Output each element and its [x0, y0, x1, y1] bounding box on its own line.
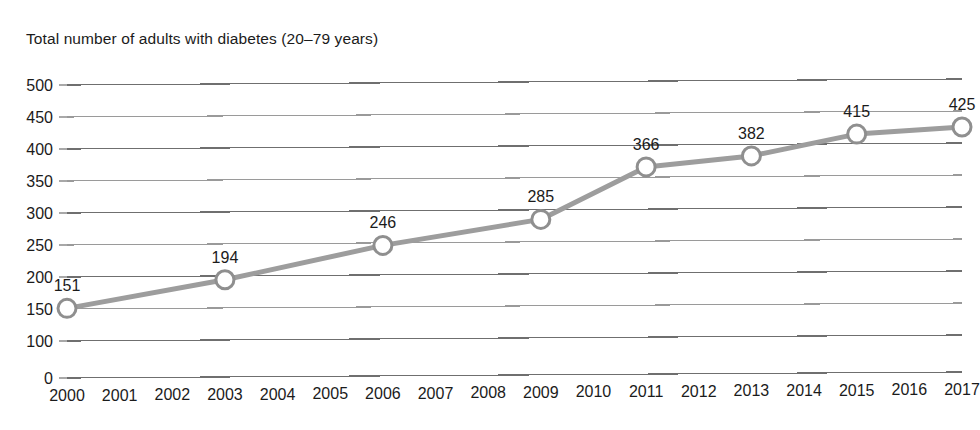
x-axis-tick-label: 2010 [576, 383, 612, 400]
y-axis-tick-label: 0 [44, 370, 53, 387]
y-axis-tick-label: 250 [26, 237, 53, 254]
gridline [67, 271, 962, 277]
gridline [67, 175, 962, 181]
gridline [67, 335, 962, 341]
x-axis-tick-label: 2001 [102, 387, 138, 404]
x-axis-tick-label: 2002 [154, 386, 190, 403]
data-point-marker[interactable] [848, 125, 866, 143]
x-axis-tick-label: 2015 [839, 382, 875, 399]
data-point-value-labels: 151194246285366382415425 [54, 96, 976, 294]
data-point-value-label: 151 [54, 277, 81, 294]
data-point-marker[interactable] [58, 299, 76, 317]
data-point-value-label: 382 [738, 125, 765, 142]
x-axis-tick-label: 2003 [207, 386, 243, 403]
x-axis-tick-label: 2006 [365, 385, 401, 402]
gridline [67, 111, 962, 117]
tickmark-group [59, 85, 67, 378]
x-axis-tick-label: 2013 [734, 382, 770, 399]
y-axis-tick-label: 400 [26, 141, 53, 158]
data-point-value-label: 366 [633, 136, 660, 153]
data-point-marker[interactable] [742, 147, 760, 165]
x-axis-tick-label: 2017 [944, 381, 980, 398]
x-axis-tick-label: 2000 [49, 387, 85, 404]
y-axis-tick-label: 300 [26, 205, 53, 222]
x-axis-tick-label: 2016 [892, 381, 928, 398]
gridline [67, 303, 962, 309]
data-point-marker[interactable] [953, 118, 971, 136]
y-axis-tick-label: 200 [26, 269, 53, 286]
data-point-marker[interactable] [532, 210, 550, 228]
series-polyline [67, 127, 962, 308]
data-series-line [67, 127, 962, 308]
x-axis-tick-label: 2005 [312, 385, 348, 402]
data-point-value-label: 285 [527, 188, 554, 205]
data-point-value-label: 194 [212, 249, 239, 266]
y-axis-tick-label: 150 [26, 301, 53, 318]
gridline [67, 207, 962, 213]
x-axis-tick-label: 2004 [260, 386, 296, 403]
y-axis-tick-label: 450 [26, 109, 53, 126]
y-axis-tick-labels: 0100150200250300350400450500 [26, 77, 53, 387]
gridline [67, 239, 962, 245]
x-axis-tick-label: 2014 [786, 382, 822, 399]
line-chart-plot: 0100150200250300350400450500 20002001200… [0, 0, 980, 430]
gridline-group [67, 79, 962, 378]
x-axis-tick-label: 2011 [629, 383, 664, 400]
x-axis-tick-label: 2008 [470, 384, 506, 401]
gridline [67, 372, 962, 378]
y-axis-tick-label: 350 [26, 173, 53, 190]
data-point-marker[interactable] [374, 236, 392, 254]
y-axis-tick-label: 500 [26, 77, 53, 94]
data-point-value-label: 246 [370, 214, 397, 231]
x-axis-tick-label: 2012 [681, 383, 717, 400]
data-point-value-label: 415 [843, 103, 870, 120]
x-axis-tick-labels: 2000200120022003200420052006200720082009… [49, 381, 980, 404]
chart-figure: Total number of adults with diabetes (20… [0, 0, 980, 430]
data-point-marker[interactable] [637, 158, 655, 176]
gridline [67, 79, 962, 85]
data-point-marker[interactable] [216, 271, 234, 289]
x-axis-tick-label: 2009 [523, 384, 559, 401]
y-axis-tick-label: 100 [26, 333, 53, 350]
data-point-value-label: 425 [949, 96, 976, 113]
x-axis-tick-label: 2007 [418, 385, 454, 402]
gridline [67, 143, 962, 149]
